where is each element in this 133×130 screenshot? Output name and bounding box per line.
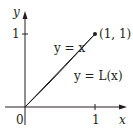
- y-axis-arrow-icon: [23, 11, 28, 19]
- line-label: y = x: [53, 41, 85, 55]
- x-tick-label: 1: [92, 113, 100, 127]
- x-axis-label: x: [119, 113, 126, 127]
- point-1-1: [93, 32, 97, 36]
- x-axis-arrow-icon: [119, 105, 127, 110]
- origin-label: 0: [16, 113, 24, 127]
- y-tick-label: 1: [12, 27, 20, 41]
- lorenz-diagram: y 1 0 1 x (1, 1) y = x y = L(x): [0, 0, 133, 130]
- lorenz-label: y = L(x): [73, 69, 123, 83]
- y-axis-label: y: [12, 5, 20, 19]
- point-label: (1, 1): [99, 27, 131, 41]
